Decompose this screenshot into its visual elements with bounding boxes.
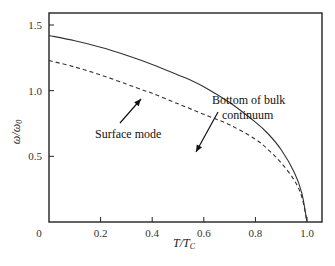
- y-axis-label: ω/ω0: [9, 120, 24, 144]
- tick-labels: 00.20.40.60.81.00.51.01.5: [28, 19, 314, 239]
- annotation-surface-mode: Surface mode: [95, 127, 161, 141]
- x-tick-label: 0.2: [94, 227, 108, 239]
- annotation-bulk-line1: Bottom of bulk: [212, 93, 285, 107]
- chart: 00.20.40.60.81.00.51.01.5 Bottom of bulk…: [0, 0, 335, 266]
- y-tick-label: 1.0: [28, 85, 42, 97]
- x-tick-label: 0.8: [249, 227, 263, 239]
- y-tick-label: 1.5: [28, 19, 42, 31]
- x-tick-label: 0.4: [145, 227, 159, 239]
- annotation-bulk-line2: continuum: [222, 108, 274, 122]
- x-axis-label: T/TC: [173, 236, 196, 251]
- axis-ticks: [49, 25, 307, 222]
- x-tick-label: 0.6: [197, 227, 211, 239]
- series-bottom-of-bulk-continuum: [49, 36, 307, 223]
- x-tick-label: 0: [36, 227, 42, 239]
- series-surface-mode: [49, 61, 307, 223]
- y-tick-label: 0.5: [28, 150, 42, 162]
- x-tick-label: 1.0: [300, 227, 314, 239]
